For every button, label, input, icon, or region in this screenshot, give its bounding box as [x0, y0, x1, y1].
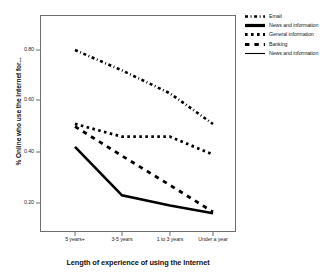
legend-swatch-dash-dot-icon — [244, 13, 266, 20]
legend-label-news-and-information: News and information — [269, 50, 318, 56]
x-tick-label-3: Under a year — [185, 236, 241, 242]
legend-swatch-dashed-icon — [244, 41, 266, 48]
legend-item-email: Email — [244, 13, 326, 20]
legend-label-banking: Banking — [269, 41, 287, 47]
plot-area — [40, 15, 236, 232]
legend-item-news-and-information: News and information — [244, 50, 326, 57]
x-axis-title: Length of experience of using the Intern… — [30, 258, 246, 267]
legend-label-email: Email — [269, 13, 282, 19]
y-tick-label-3: 0.20 — [12, 199, 34, 205]
legend-swatch-solid-icon — [244, 50, 266, 57]
chart-legend: Email News and information General infor… — [244, 13, 326, 59]
y-axis-title: % Online who use the Internet for... — [15, 37, 22, 187]
legend-label-general-information: General information — [269, 31, 314, 37]
legend-item-news-and-information-thick: News and information — [244, 22, 326, 29]
legend-item-banking: Banking — [244, 41, 326, 48]
legend-item-general-information: General information — [244, 31, 326, 38]
legend-swatch-dotted-icon — [244, 31, 266, 38]
legend-swatch-thick-solid-icon — [244, 22, 266, 29]
line-chart: 0.80 0.60 0.40 0.20 % Online who use the… — [0, 0, 327, 280]
legend-label-news-and-information-thick: News and information — [269, 22, 318, 28]
